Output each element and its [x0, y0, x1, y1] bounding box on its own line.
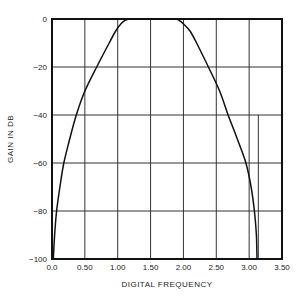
- y-tick-label: −60: [33, 159, 47, 168]
- x-tick-label: 1.00: [110, 263, 126, 272]
- x-tick-label: 0.0: [46, 263, 58, 272]
- x-tick-label: 0.50: [77, 263, 93, 272]
- grid-lines: [52, 19, 282, 259]
- y-tick-label: 0: [43, 15, 48, 24]
- x-tick-label: 2.00: [176, 263, 192, 272]
- x-tick-label: 2.50: [208, 263, 224, 272]
- x-tick-label: 3.50: [274, 263, 290, 272]
- x-tick-label: 1.50: [143, 263, 159, 272]
- chart: 0.00.501.001.502.002.503.003.50 0−20−40−…: [0, 0, 307, 303]
- y-tick-label: −40: [33, 111, 47, 120]
- x-axis-label: DIGITAL FREQUENCY: [121, 280, 212, 289]
- y-tick-label: −20: [33, 63, 47, 72]
- gain-curve: [53, 19, 257, 259]
- y-tick-labels: 0−20−40−60−80−100: [29, 15, 48, 264]
- y-tick-label: −80: [33, 207, 47, 216]
- plot-frame: [52, 19, 282, 259]
- x-tick-labels: 0.00.501.001.502.002.503.003.50: [46, 263, 290, 272]
- x-tick-label: 3.00: [241, 263, 257, 272]
- y-tick-label: −100: [29, 255, 48, 264]
- y-axis-label: GAIN IN DB: [6, 115, 15, 163]
